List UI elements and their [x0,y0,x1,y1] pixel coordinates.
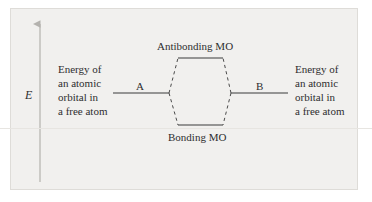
figure-screenshot: E Energy of an atomic orbital in a free … [0,0,372,202]
correlation-a-to-bonding [169,93,178,125]
atomic-level-b-label: B [256,79,263,93]
right-atomic-orbital-caption: Energy of an atomic orbital in a free at… [295,62,344,118]
bonding-mo-label: Bonding MO [168,130,226,144]
correlation-b-to-antibonding [223,58,231,93]
atomic-level-a-label: A [136,79,144,93]
correlation-b-to-bonding [223,93,231,125]
left-atomic-orbital-caption: Energy of an atomic orbital in a free at… [58,62,107,118]
antibonding-mo-label: Antibonding MO [157,39,233,53]
correlation-a-to-antibonding [169,58,178,93]
energy-axis-label: E [25,88,32,102]
